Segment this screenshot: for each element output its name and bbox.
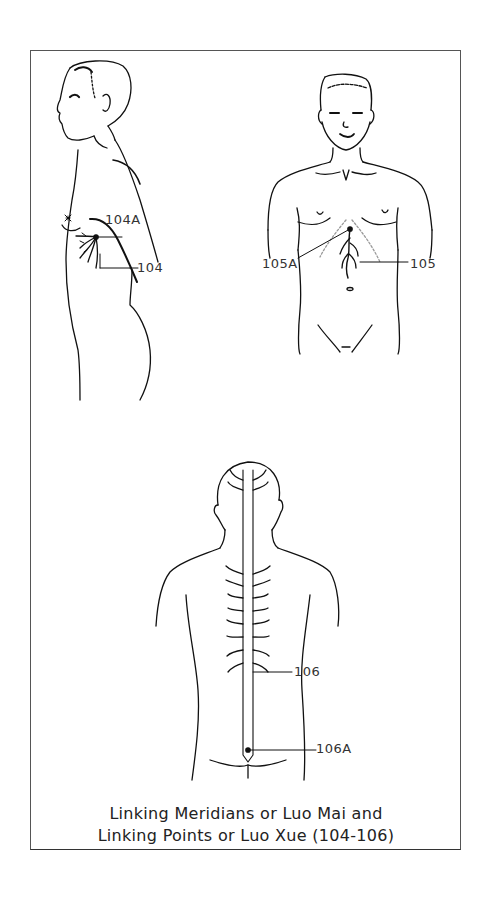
point-label-104: 104 [137,260,163,275]
point-label-105a: 105A [262,256,298,271]
figure-caption: Linking Meridians or Luo Mai and Linking… [0,803,492,847]
point-label-105: 105 [410,256,436,271]
point-label-106: 106 [294,664,320,679]
caption-line-1: Linking Meridians or Luo Mai and [0,803,492,825]
back-view-figure [156,462,339,780]
side-view-figure [57,61,158,400]
anatomy-illustration [0,0,492,898]
point-label-104a: 104A [105,212,141,227]
front-view-figure [268,74,432,354]
caption-line-2: Linking Points or Luo Xue (104-106) [0,825,492,847]
point-label-106a: 106A [316,741,352,756]
